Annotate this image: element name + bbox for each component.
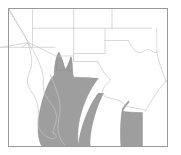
map-canvas <box>0 0 181 155</box>
range-map-figure: Range map of southwestern United States … <box>0 0 181 155</box>
